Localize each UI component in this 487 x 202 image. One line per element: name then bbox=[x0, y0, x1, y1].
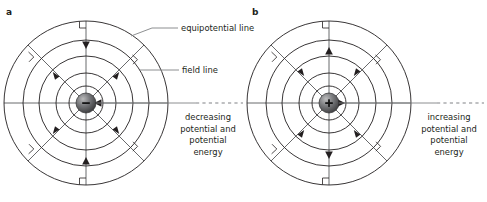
minus-sign-icon bbox=[82, 102, 90, 104]
panel-label-b: b bbox=[252, 7, 258, 17]
field-arrow-b-bottom bbox=[325, 152, 333, 160]
annotation-b-line-2: potential and bbox=[411, 124, 487, 136]
leader-equipotential bbox=[131, 28, 178, 36]
right-angle-marker-b-se bbox=[376, 142, 381, 151]
field-arrow-a-bottom bbox=[82, 157, 90, 165]
right-angle-marker-a-nw bbox=[29, 52, 34, 62]
figure-container: a b equipotential line field line decrea… bbox=[0, 0, 487, 202]
right-angle-marker-a-bottom bbox=[80, 178, 87, 185]
right-angle-marker-b-bottom bbox=[323, 178, 330, 185]
field-arrow-a-top bbox=[82, 42, 90, 50]
annotation-b-line-1: increasing bbox=[411, 112, 487, 124]
right-angle-marker-b-top bbox=[323, 22, 330, 29]
right-angle-marker-b-sw bbox=[272, 144, 277, 154]
right-angle-marker-a-se bbox=[133, 142, 138, 151]
annotation-a-line-3: potential bbox=[170, 135, 246, 147]
right-angle-marker-a-top bbox=[80, 22, 87, 29]
leader-lines-a bbox=[96, 28, 196, 103]
annotation-b-line-4: energy bbox=[411, 147, 487, 159]
right-angle-marker-b-nw bbox=[272, 52, 277, 62]
annotation-a-line-4: energy bbox=[170, 147, 246, 159]
annotation-increasing-potential: increasing potential and potential energ… bbox=[411, 112, 487, 158]
annotation-b-line-3: potential bbox=[411, 135, 487, 147]
annotation-decreasing-potential: decreasing potential and potential energ… bbox=[170, 112, 246, 158]
right-angle-marker-a-sw bbox=[29, 144, 34, 154]
panel-label-a: a bbox=[6, 7, 12, 17]
label-field-line: field line bbox=[182, 66, 218, 75]
label-equipotential-line: equipotential line bbox=[181, 24, 254, 33]
annotation-a-line-2: potential and bbox=[170, 124, 246, 136]
point-charge-b bbox=[319, 93, 339, 113]
panel-b bbox=[247, 21, 484, 185]
panel-a bbox=[4, 21, 243, 185]
field-arrow-b-top bbox=[325, 47, 333, 55]
point-charge-a bbox=[76, 93, 96, 113]
annotation-a-line-1: decreasing bbox=[170, 112, 246, 124]
